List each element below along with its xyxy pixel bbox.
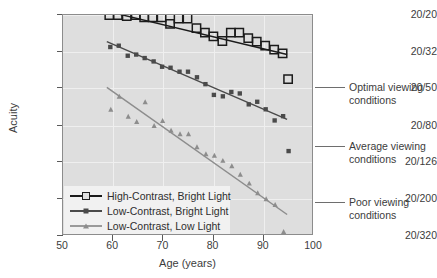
data-point <box>177 131 182 136</box>
data-point <box>281 114 285 118</box>
data-point <box>255 100 259 104</box>
data-point <box>286 149 290 153</box>
data-point <box>160 118 165 123</box>
y-axis-label: Acuity <box>7 83 19 153</box>
data-point <box>183 15 191 23</box>
trend-line <box>107 42 287 120</box>
data-point <box>221 94 225 98</box>
data-point <box>168 128 173 133</box>
data-point <box>126 114 131 119</box>
data-point <box>229 163 234 168</box>
data-point <box>238 91 242 95</box>
legend-item[interactable]: Low-Contrast, Low Light <box>64 219 230 233</box>
data-point <box>105 15 113 19</box>
data-point <box>177 70 181 74</box>
data-point <box>134 52 138 56</box>
data-point <box>220 158 225 163</box>
data-point <box>264 107 268 111</box>
data-point <box>143 99 148 104</box>
x-tick-mark <box>112 235 113 241</box>
data-point <box>272 118 276 122</box>
data-point <box>203 82 207 86</box>
data-point <box>192 24 200 32</box>
data-point <box>186 70 190 74</box>
legend-label: High-Contrast, Bright Light <box>107 190 231 202</box>
leader-line-poor <box>315 202 345 203</box>
x-tick-mark <box>162 235 163 241</box>
data-point <box>142 56 146 60</box>
leader-line-average <box>315 146 345 147</box>
y-tick-label: 20/320 <box>379 229 437 241</box>
acuity-vs-age-figure: 20/2020/3220/5020/8020/12620/20020/320 5… <box>0 0 437 278</box>
x-tick-label: 100 <box>293 239 333 251</box>
data-point <box>151 59 155 63</box>
data-point <box>152 123 157 128</box>
data-point <box>174 15 182 23</box>
data-point <box>157 15 165 21</box>
data-point <box>229 90 233 94</box>
x-tick-mark <box>263 235 264 241</box>
data-point <box>117 44 121 48</box>
trend-line <box>106 15 287 55</box>
data-point <box>108 107 113 112</box>
data-point <box>253 37 261 45</box>
legend-label: Low-Contrast, Bright Light <box>107 205 228 217</box>
data-point <box>114 15 122 19</box>
y-tick-label: 20/20 <box>379 8 437 20</box>
x-axis-label: Age (years) <box>62 257 313 269</box>
legend-label: Low-Contrast, Low Light <box>107 220 220 232</box>
data-point <box>126 54 130 58</box>
x-tick-mark <box>213 235 214 241</box>
annotation-average: Average viewing conditions <box>349 140 435 165</box>
data-point <box>235 28 243 36</box>
data-point <box>247 102 251 106</box>
legend-item[interactable]: Low-Contrast, Bright Light <box>64 204 230 218</box>
data-point <box>108 45 112 49</box>
data-point <box>238 172 243 177</box>
x-tick-label: 50 <box>42 239 82 251</box>
data-point <box>148 15 156 21</box>
filled-triangle-icon <box>69 219 103 233</box>
data-point <box>244 34 252 42</box>
data-point <box>212 93 216 97</box>
annotation-optimal: Optimal viewing conditions <box>349 81 435 106</box>
data-point <box>194 144 199 149</box>
data-point <box>284 75 292 83</box>
data-point <box>203 151 208 156</box>
data-point <box>160 65 164 69</box>
y-tick-label: 20/80 <box>379 119 437 131</box>
data-point <box>227 28 235 36</box>
data-point <box>247 181 252 186</box>
filled-square-icon <box>69 204 103 218</box>
data-point <box>186 131 191 136</box>
y-tick-label: 20/32 <box>379 45 437 57</box>
data-point <box>281 229 286 234</box>
legend-item[interactable]: High-Contrast, Bright Light <box>64 189 230 203</box>
legend: High-Contrast, Bright Light Low-Contrast… <box>64 186 230 234</box>
open-square-icon <box>69 189 103 203</box>
y-tick-mark <box>57 235 63 236</box>
data-point <box>168 66 172 70</box>
data-point <box>134 119 139 124</box>
annotation-poor: Poor viewing conditions <box>349 196 435 221</box>
leader-line-optimal <box>315 87 345 88</box>
data-point <box>195 75 199 79</box>
data-point <box>212 153 217 158</box>
